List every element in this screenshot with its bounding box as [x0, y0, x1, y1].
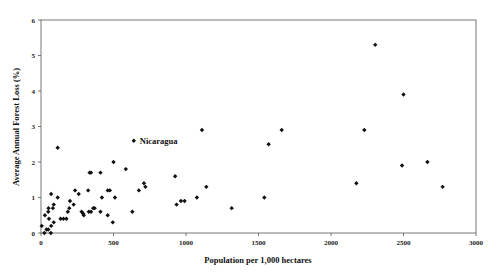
data-point-marker	[132, 139, 136, 143]
y-tick-label: 3	[32, 123, 36, 131]
y-tick-label: 5	[32, 52, 36, 60]
data-point-marker	[100, 195, 104, 199]
data-point-marker	[400, 163, 404, 167]
data-point-marker	[262, 195, 266, 199]
data-point-marker	[46, 206, 50, 210]
x-axis: 050010001500200025003000	[39, 233, 483, 247]
data-point-marker	[173, 174, 177, 178]
data-point-marker	[77, 192, 81, 196]
y-tick-label: 6	[32, 17, 36, 25]
x-tick-label: 0	[39, 239, 43, 247]
data-point-marker	[52, 220, 56, 224]
data-point-marker	[373, 43, 377, 47]
data-point-marker	[68, 199, 72, 203]
data-point-marker	[40, 224, 44, 228]
data-point-marker	[130, 210, 134, 214]
x-tick-label: 1500	[252, 239, 267, 247]
y-tick-label: 1	[32, 194, 36, 202]
data-point-marker	[73, 188, 77, 192]
y-tick-label: 4	[32, 88, 36, 96]
data-point-marker	[124, 167, 128, 171]
data-point-marker	[55, 195, 59, 199]
data-point-marker	[111, 220, 115, 224]
data-point-marker	[49, 224, 53, 228]
x-tick-label: 2000	[324, 239, 339, 247]
data-point-marker	[49, 231, 53, 235]
scatter-chart: 0123456 050010001500200025003000 Nicarag…	[0, 0, 498, 280]
data-point-marker	[200, 128, 204, 132]
data-point-marker	[49, 192, 53, 196]
data-point-marker	[42, 231, 46, 235]
data-point-marker	[106, 213, 110, 217]
annotations: Nicaragua	[140, 136, 179, 146]
data-point-marker	[137, 188, 141, 192]
data-point-marker	[362, 128, 366, 132]
y-axis: 0123456	[32, 17, 42, 238]
y-axis-title: Average Annual Forest Loss (%)	[11, 68, 21, 186]
data-point-marker	[113, 195, 117, 199]
data-point-marker	[64, 217, 68, 221]
x-tick-label: 500	[108, 239, 119, 247]
data-points	[40, 43, 445, 236]
data-point-marker	[425, 160, 429, 164]
data-point-marker	[174, 202, 178, 206]
data-point-marker	[229, 206, 233, 210]
x-tick-label: 3000	[469, 239, 484, 247]
annotation-label: Nicaragua	[140, 136, 179, 146]
data-point-marker	[266, 142, 270, 146]
data-point-marker	[440, 185, 444, 189]
data-point-marker	[204, 185, 208, 189]
data-point-marker	[182, 199, 186, 203]
data-point-marker	[354, 181, 358, 185]
data-point-marker	[71, 202, 75, 206]
data-point-marker	[111, 160, 115, 164]
data-point-marker	[280, 128, 284, 132]
data-point-marker	[46, 210, 50, 214]
x-tick-label: 1000	[179, 239, 194, 247]
y-tick-label: 2	[32, 159, 36, 167]
data-point-marker	[86, 188, 90, 192]
data-point-marker	[98, 170, 102, 174]
y-tick-label: 0	[32, 230, 36, 238]
data-point-marker	[52, 202, 56, 206]
data-point-marker	[98, 210, 102, 214]
data-point-marker	[51, 206, 55, 210]
data-point-marker	[43, 213, 47, 217]
data-point-marker	[401, 92, 405, 96]
x-tick-label: 2500	[397, 239, 412, 247]
data-point-marker	[47, 217, 51, 221]
plot-frame	[41, 20, 476, 233]
data-point-marker	[195, 195, 199, 199]
data-point-marker	[55, 146, 59, 150]
x-axis-title: Population per 1,000 hectares	[204, 255, 312, 265]
